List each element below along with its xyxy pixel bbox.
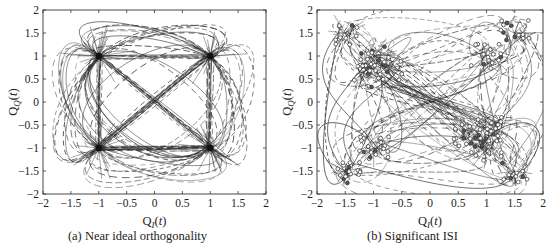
plot-a-canvas: −2−1.5−1−0.500.511.52−2−1.5−1−0.500.511.… [0, 0, 275, 251]
panel-significant-isi: −2−1.5−1−0.500.511.52−2−1.5−1−0.500.511.… [275, 0, 550, 251]
x-tick-label: 0 [152, 197, 158, 209]
x-tick-label: 1 [484, 197, 490, 209]
trajectory-group [318, 1, 550, 207]
y-tick-label: −1.5 [292, 165, 313, 177]
y-tick-label: 1.5 [25, 27, 40, 39]
x-tick-label: −0.5 [116, 197, 137, 209]
y-tick-label: 0 [307, 96, 313, 108]
y-tick-label: −1 [301, 142, 313, 154]
plot-b-canvas: −2−1.5−1−0.500.511.52−2−1.5−1−0.500.511.… [275, 0, 550, 251]
x-tick-label: 0.5 [451, 197, 466, 209]
caption-a: (a) Near ideal orthogonality [0, 229, 275, 244]
x-tick-label: 1.5 [508, 197, 523, 209]
panel-near-ideal-orthogonality: −2−1.5−1−0.500.511.52−2−1.5−1−0.500.511.… [0, 0, 275, 251]
x-axis-label: QI(t) [143, 214, 167, 230]
y-tick-label: −0.5 [18, 119, 39, 131]
y-tick-label: 0 [33, 96, 39, 108]
x-axis-label: QI(t) [418, 214, 442, 230]
y-tick-label: 0.5 [25, 73, 40, 85]
y-tick-label: −1.5 [18, 165, 39, 177]
x-tick-label: 0 [427, 197, 433, 209]
x-tick-label: −1 [367, 197, 379, 209]
y-tick-label: 0.5 [299, 73, 314, 85]
x-tick-label: −1.5 [60, 197, 81, 209]
y-tick-label: −0.5 [292, 119, 313, 131]
y-tick-label: 2 [307, 4, 313, 16]
x-tick-label: 1.5 [231, 197, 246, 209]
x-tick-label: 2 [263, 197, 269, 209]
y-tick-label: −2 [301, 188, 313, 200]
x-tick-label: 2 [540, 197, 546, 209]
x-tick-label: 0.5 [175, 197, 190, 209]
y-tick-label: 1 [307, 50, 313, 62]
y-tick-label: 2 [33, 4, 39, 16]
y-axis-label: QQ(t) [6, 88, 22, 115]
y-tick-label: −2 [27, 188, 39, 200]
y-tick-label: 1.5 [299, 27, 314, 39]
x-tick-label: 1 [207, 197, 213, 209]
trajectory-group [52, 22, 254, 188]
y-tick-label: −1 [27, 142, 39, 154]
y-axis-label: QQ(t) [280, 88, 296, 115]
x-tick-label: −1.5 [335, 197, 356, 209]
y-tick-label: 1 [33, 50, 39, 62]
x-tick-label: −1 [93, 197, 105, 209]
x-tick-label: −0.5 [391, 197, 412, 209]
caption-b: (b) Significant ISI [275, 229, 550, 244]
